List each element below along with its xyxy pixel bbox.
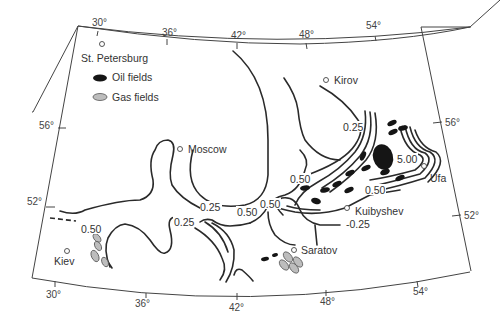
oil-field	[300, 185, 311, 192]
contour-label: 0.25	[343, 121, 364, 133]
contour-label: 5.00	[397, 153, 418, 165]
city-label-kiev: Kiev	[54, 255, 75, 267]
contour-label: 0.50	[237, 206, 258, 218]
oil-field-legend-icon	[93, 75, 107, 82]
contour-label: 0.25	[174, 216, 195, 228]
gas-field	[100, 256, 110, 268]
city-marker-saratov	[292, 248, 297, 253]
oil-field	[343, 186, 354, 195]
city-marker-moscow	[178, 147, 183, 152]
lat-label-right-56: 56°	[445, 117, 460, 128]
city-marker-kuibyshev	[345, 206, 350, 211]
lon-label-bottom-48: 48°	[320, 296, 335, 307]
lat-label-right-52: 52°	[464, 210, 479, 221]
contour-labels: 0.25 5.00 0.50 0.50 -0.25 0.50 0.50 0.25…	[80, 121, 418, 235]
lon-label-top-36: 36°	[162, 27, 177, 38]
oil-field	[261, 256, 270, 261]
contour-label: 0.50	[81, 223, 102, 235]
contour-label: 0.50	[365, 184, 386, 196]
contour-label: 0.50	[260, 198, 281, 210]
lat-label-left-56: 56°	[39, 120, 54, 131]
oil-field	[386, 119, 397, 128]
city-label-kirov: Kirov	[334, 74, 359, 86]
city-label-kuibyshev: Kuibyshev	[355, 205, 404, 217]
lon-label-bottom-36: 36°	[135, 298, 150, 309]
oil-field	[310, 197, 321, 205]
lon-label-bottom-30: 30°	[46, 289, 61, 300]
contour-label: -0.25	[346, 218, 370, 230]
oil-field	[272, 252, 279, 257]
legend-gas-label: Gas fields	[112, 91, 159, 103]
contour-label: 0.50	[290, 173, 311, 185]
oil-field	[320, 186, 331, 193]
oil-fields	[261, 119, 409, 262]
lon-label-top-30: 30°	[92, 17, 107, 28]
lon-label-top-48: 48°	[299, 29, 314, 40]
gas-field	[93, 240, 103, 252]
lon-label-bottom-54: 54°	[413, 286, 428, 297]
legend-oil-label: Oil fields	[112, 71, 152, 83]
lon-label-top-42: 42°	[231, 30, 246, 41]
gas-field	[89, 249, 100, 263]
legend: Oil fields Gas fields	[93, 71, 159, 103]
city-label-ufa: Ufa	[430, 172, 447, 184]
lon-label-bottom-42: 42°	[229, 302, 244, 313]
map-canvas: 30° 36° 42° 48° 54° 56° 52° 56° 52° 30° …	[0, 0, 500, 331]
city-label-saratov: Saratov	[301, 244, 338, 256]
city-label-st-petersburg: St. Petersburg	[81, 52, 148, 64]
city-marker-kirov	[324, 78, 329, 83]
contour-label: 0.25	[200, 201, 221, 213]
city-marker-kiev	[65, 249, 70, 254]
city-marker-ufa	[422, 164, 427, 169]
gas-fields	[89, 232, 304, 275]
lat-label-left-52: 52°	[27, 196, 42, 207]
city-label-moscow: Moscow	[188, 143, 227, 155]
gas-field-legend-icon	[93, 94, 107, 101]
lon-label-top-54: 54°	[366, 20, 381, 31]
oil-field	[387, 128, 398, 137]
city-marker-st-petersburg	[100, 42, 105, 47]
